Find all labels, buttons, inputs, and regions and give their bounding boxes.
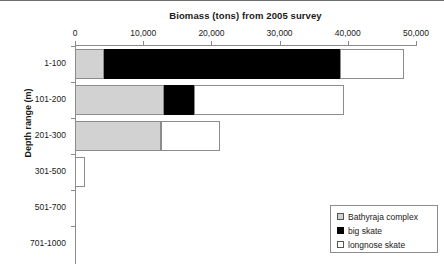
- x-tick-mark: [280, 41, 281, 45]
- bar-segment: [75, 157, 85, 187]
- bar-segment: [164, 85, 194, 115]
- x-tick-mark: [211, 41, 212, 45]
- x-tick-label: 20,000: [198, 28, 224, 38]
- y-tick-label: 1-100: [44, 58, 66, 68]
- y-axis-title: Depth range (m): [23, 78, 33, 168]
- x-tick-label: 50,000: [403, 28, 429, 38]
- legend-item-label: longnose skate: [348, 240, 405, 250]
- bar-segment: [194, 85, 345, 115]
- y-tick-label: 101-200: [35, 94, 66, 104]
- legend-swatch-icon: [337, 241, 344, 248]
- legend-swatch-icon: [337, 227, 344, 234]
- y-tick-mark: [71, 226, 75, 227]
- chart-title: Biomass (tons) from 2005 survey: [75, 10, 416, 21]
- y-tick-label: 701-1000: [30, 238, 66, 248]
- x-tick-label: 40,000: [335, 28, 361, 38]
- y-tick-label: 201-300: [35, 130, 66, 140]
- legend-item-label: big skate: [348, 226, 382, 236]
- legend-item: longnose skate: [337, 238, 405, 251]
- x-tick-mark: [348, 41, 349, 45]
- legend-item: Bathyraja complex: [337, 210, 418, 223]
- bar-segment: [340, 49, 404, 79]
- bar-segment: [104, 49, 341, 79]
- y-tick-mark: [71, 82, 75, 83]
- x-axis-tick-labels: 010,00020,00030,00040,00050,000: [0, 28, 444, 42]
- y-tick-mark: [71, 118, 75, 119]
- top-divider: [0, 0, 444, 1]
- x-tick-label: 30,000: [267, 28, 293, 38]
- y-tick-mark: [71, 154, 75, 155]
- x-tick-label: 10,000: [130, 28, 156, 38]
- y-tick-mark: [71, 190, 75, 191]
- legend-swatch-icon: [337, 213, 344, 220]
- x-tick-mark: [416, 41, 417, 45]
- legend-item: big skate: [337, 224, 382, 237]
- y-tick-label: 501-700: [35, 202, 66, 212]
- bar-segment: [161, 121, 220, 151]
- x-axis-line: [75, 45, 417, 46]
- y-tick-label: 301-500: [35, 166, 66, 176]
- bar-segment: [75, 49, 104, 79]
- legend-item-label: Bathyraja complex: [348, 212, 418, 222]
- x-tick-label: 0: [73, 28, 78, 38]
- biomass-bar-chart: Biomass (tons) from 2005 survey 010,0002…: [0, 0, 444, 275]
- chart-legend: Bathyraja complexbig skatelongnose skate: [330, 205, 438, 253]
- bar-segment: [75, 85, 164, 115]
- bar-segment: [75, 121, 161, 151]
- x-tick-mark: [143, 41, 144, 45]
- y-tick-mark: [71, 46, 75, 47]
